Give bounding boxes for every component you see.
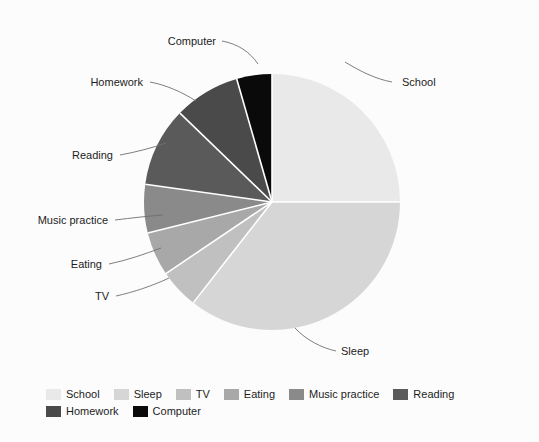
legend-swatch-icon	[114, 389, 129, 400]
legend-swatch-icon	[289, 389, 304, 400]
legend-label: Homework	[66, 406, 119, 417]
legend-swatch-icon	[46, 389, 61, 400]
slice-label-sleep: Sleep	[341, 345, 369, 357]
legend-label: Reading	[413, 389, 454, 400]
leader-line-sleep	[295, 328, 336, 351]
legend-item-computer[interactable]: Computer	[133, 403, 201, 420]
legend-label: Sleep	[134, 389, 162, 400]
legend-item-sleep[interactable]: Sleep	[114, 386, 162, 403]
legend-item-school[interactable]: School	[46, 386, 100, 403]
legend-item-homework[interactable]: Homework	[46, 403, 119, 420]
slice-label-homework: Homework	[90, 76, 143, 88]
chart-legend: SchoolSleepTVEatingMusic practiceReading…	[46, 386, 526, 420]
pie-chart-canvas: SchoolSleepTVEatingMusic practiceReading…	[0, 0, 539, 442]
slice-label-reading: Reading	[72, 149, 113, 161]
leader-line-eating	[109, 248, 161, 264]
leader-line-homework	[150, 82, 196, 101]
legend-swatch-icon	[133, 406, 148, 417]
leader-line-computer	[222, 41, 258, 64]
legend-label: TV	[196, 389, 210, 400]
legend-item-eating[interactable]: Eating	[224, 386, 275, 403]
slice-label-music-practice: Music practice	[38, 214, 108, 226]
legend-swatch-icon	[224, 389, 239, 400]
slice-label-tv: TV	[95, 290, 110, 302]
legend-label: School	[66, 389, 100, 400]
leader-line-tv	[116, 278, 169, 296]
legend-label: Eating	[244, 389, 275, 400]
legend-swatch-icon	[46, 406, 61, 417]
legend-label: Computer	[153, 406, 201, 417]
pie-slice-school[interactable]	[272, 74, 400, 202]
legend-item-tv[interactable]: TV	[176, 386, 210, 403]
slice-label-school: School	[402, 76, 436, 88]
legend-item-music-practice[interactable]: Music practice	[289, 386, 379, 403]
leader-line-school	[345, 62, 392, 82]
legend-label: Music practice	[309, 389, 379, 400]
slice-label-computer: Computer	[168, 35, 217, 47]
pie-chart-figure: SchoolSleepTVEatingMusic practiceReading…	[0, 0, 539, 442]
legend-swatch-icon	[176, 389, 191, 400]
slice-label-eating: Eating	[71, 258, 102, 270]
legend-swatch-icon	[393, 389, 408, 400]
legend-item-reading[interactable]: Reading	[393, 386, 454, 403]
